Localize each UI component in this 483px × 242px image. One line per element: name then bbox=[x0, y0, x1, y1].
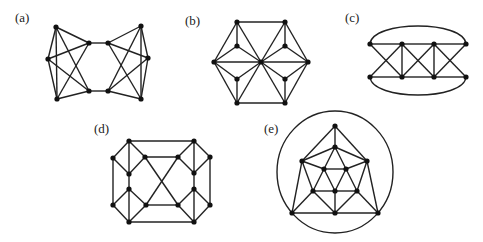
graph-d-edge bbox=[178, 141, 194, 157]
graph-e-vertex bbox=[321, 166, 326, 171]
graph-d-edges bbox=[113, 141, 210, 222]
graph-a-edge bbox=[141, 58, 148, 99]
graph-d-edge bbox=[113, 189, 129, 205]
graph-d-vertex bbox=[191, 186, 196, 191]
graph-c-vertex bbox=[367, 74, 372, 79]
graph-b-edge bbox=[214, 62, 237, 103]
graph-e-vertex bbox=[354, 188, 359, 193]
graph-e-edge bbox=[357, 191, 378, 213]
graph-a-vertex bbox=[86, 88, 91, 93]
graph-d-edge bbox=[129, 157, 145, 174]
graph-b-edge bbox=[285, 22, 308, 62]
graph-e-edge bbox=[335, 191, 357, 213]
graph-e-edge bbox=[324, 169, 335, 191]
graph-b-edge bbox=[261, 22, 285, 62]
graph-e-vertex bbox=[332, 123, 337, 128]
graph-d-edge bbox=[129, 205, 146, 222]
graph-d-edge bbox=[129, 141, 145, 157]
graph-d-vertex bbox=[142, 154, 147, 159]
graph-e-edge bbox=[292, 161, 302, 213]
graph-d-vertex bbox=[110, 202, 115, 207]
graph-c-vertex bbox=[399, 74, 404, 79]
graph-e-vertex bbox=[310, 188, 315, 193]
graph-a-edge bbox=[56, 27, 57, 99]
graph-d-edge bbox=[113, 205, 129, 222]
graph-a-edge bbox=[57, 91, 89, 99]
graph-d-edge bbox=[129, 189, 146, 205]
graph-d-edge bbox=[194, 141, 210, 157]
graph-d-edge bbox=[194, 157, 210, 173]
graph-d-vertex bbox=[191, 219, 196, 224]
graph-d-edge bbox=[178, 189, 194, 205]
graph-e-vertex bbox=[332, 210, 337, 215]
graph-a-edge bbox=[108, 43, 141, 99]
graph-d-vertex bbox=[126, 171, 131, 176]
graph-e-vertex bbox=[343, 166, 348, 171]
graph-d-vertex bbox=[110, 155, 115, 160]
graph-a-vertex bbox=[54, 96, 59, 101]
graph-b-edge bbox=[237, 62, 261, 103]
graph-a-edge bbox=[48, 27, 56, 59]
graph-a-edge bbox=[108, 91, 141, 99]
graph-a-edge bbox=[141, 26, 148, 58]
graph-b-edge bbox=[214, 46, 237, 62]
graph-a-vertex bbox=[53, 24, 58, 29]
graph-c: (c) bbox=[345, 10, 469, 95]
graph-b-vertex bbox=[282, 100, 287, 105]
graph-e-label: (e) bbox=[264, 121, 278, 136]
graph-a-label: (a) bbox=[15, 10, 29, 25]
graph-c-vertex bbox=[399, 41, 404, 46]
graph-b: (b) bbox=[185, 13, 311, 106]
graph-e-edge bbox=[302, 147, 335, 161]
graph-c-arc bbox=[370, 77, 466, 95]
graph-e-edge bbox=[302, 161, 313, 191]
graph-a-edge bbox=[108, 26, 141, 91]
graph-e-edge bbox=[335, 147, 346, 169]
graph-d-vertex bbox=[175, 154, 180, 159]
graph-e-edge bbox=[346, 161, 367, 169]
graph-a-edge bbox=[57, 43, 89, 99]
graph-a-edge bbox=[56, 27, 89, 91]
graph-d-edge bbox=[194, 205, 210, 222]
graph-b-vertex bbox=[211, 59, 216, 64]
graph-b-vertex bbox=[282, 43, 287, 48]
graph-e-vertex bbox=[332, 144, 337, 149]
graph-b-vertex bbox=[282, 19, 287, 24]
graph-a-vertex bbox=[105, 88, 110, 93]
graph-e-vertex bbox=[289, 210, 294, 215]
graph-a-vertex bbox=[138, 23, 143, 28]
graph-a-vertex bbox=[138, 96, 143, 101]
graph-b-edge bbox=[237, 22, 261, 62]
graph-d-vertex bbox=[191, 138, 196, 143]
graph-b-vertex bbox=[234, 19, 239, 24]
graph-d-vertex bbox=[126, 219, 131, 224]
graph-e-edge bbox=[335, 169, 346, 191]
graph-c-vertex bbox=[463, 74, 468, 79]
graph-a-edge bbox=[108, 43, 148, 58]
graph-c-vertex bbox=[431, 74, 436, 79]
graph-d-vertex bbox=[207, 154, 212, 159]
graph-e-edge bbox=[313, 191, 335, 213]
graph-c-edges bbox=[370, 26, 466, 95]
graph-d-vertex bbox=[191, 170, 196, 175]
graph-e-edge bbox=[357, 161, 367, 191]
graph-b-edge bbox=[285, 62, 308, 79]
graph-e-edge bbox=[335, 147, 367, 161]
graph-figure: (a) (b) (c) (d) (e) bbox=[0, 0, 483, 242]
graph-d-vertex bbox=[143, 202, 148, 207]
graph-a-vertex bbox=[86, 40, 91, 45]
graph-e-vertex bbox=[364, 158, 369, 163]
graph-d-vertex bbox=[126, 186, 131, 191]
graph-d-edge bbox=[113, 141, 129, 158]
graph-e: (e) bbox=[264, 111, 393, 233]
graph-c-vertex bbox=[463, 41, 468, 46]
graph-b-edge bbox=[214, 62, 237, 79]
graph-a-vertex bbox=[45, 56, 50, 61]
graph-e-edge bbox=[346, 169, 357, 191]
graph-c-label: (c) bbox=[345, 10, 359, 25]
graph-b-edge bbox=[214, 22, 237, 62]
graph-c-vertex bbox=[367, 41, 372, 46]
graph-d-edge bbox=[113, 158, 129, 174]
graph-b-edge bbox=[261, 62, 285, 103]
graph-e-edge bbox=[367, 161, 378, 213]
